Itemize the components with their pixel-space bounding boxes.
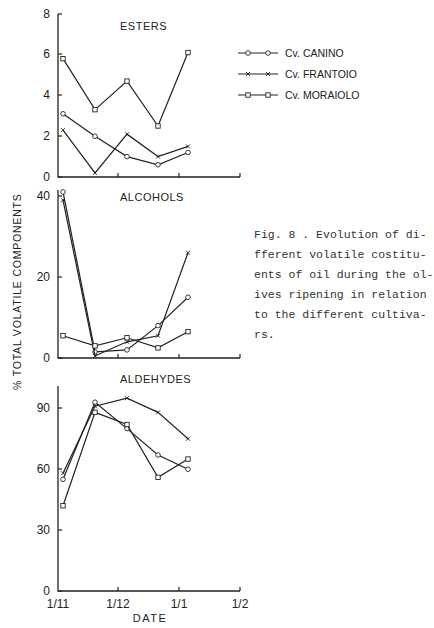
x-axis-label: DATE	[133, 612, 168, 624]
series-cvcanino	[61, 111, 191, 167]
square-marker-icon	[61, 504, 65, 508]
square-marker-icon	[156, 124, 160, 128]
square-marker-icon	[125, 79, 129, 83]
square-marker-icon	[186, 50, 190, 54]
x-tick-label: 1/2	[232, 597, 249, 611]
square-marker-icon	[93, 107, 97, 111]
circle-marker-icon	[61, 190, 66, 195]
panel-alcohols: 02040ALCOHOLS	[37, 189, 240, 365]
x-marker-icon	[61, 128, 65, 132]
figure-caption: Fig. 8 . Evolution of di- fferent volati…	[254, 225, 434, 345]
x-tick-label: 1/1	[171, 597, 188, 611]
circle-marker-icon	[156, 323, 161, 328]
series-cvfrantoio	[61, 128, 190, 175]
y-tick-label: 0	[43, 584, 50, 598]
series-line	[63, 402, 188, 479]
circle-marker-icon	[266, 51, 271, 56]
x-marker-icon	[125, 132, 129, 136]
series-line	[63, 200, 188, 356]
circle-marker-icon	[186, 467, 191, 472]
square-marker-icon	[125, 336, 129, 340]
circle-marker-icon	[246, 51, 251, 56]
series-cvmoraiolo	[61, 50, 190, 128]
square-marker-icon	[125, 422, 129, 426]
square-marker-icon	[266, 93, 270, 97]
square-marker-icon	[246, 93, 250, 97]
x-tick-label: 1/12	[106, 597, 130, 611]
y-tick-label: 90	[37, 401, 51, 415]
circle-marker-icon	[93, 134, 98, 139]
square-marker-icon	[61, 56, 65, 60]
y-tick-label: 20	[37, 270, 51, 284]
circle-marker-icon	[186, 295, 191, 300]
legend-item: Cv. CANINO	[238, 47, 344, 59]
panel-title: ALDEHYDES	[120, 373, 191, 385]
series-cvmoraiolo	[61, 410, 190, 508]
y-tick-label: 0	[43, 170, 50, 184]
axis-lines	[58, 386, 240, 591]
y-tick-label: 40	[37, 189, 51, 203]
series-line	[63, 130, 188, 173]
y-tick-label: 4	[43, 88, 50, 102]
legend-label: Cv. CANINO	[285, 47, 344, 59]
legend: Cv. CANINOCv. FRANTOIOCv. MORAIOLO	[238, 47, 359, 101]
x-marker-icon	[61, 471, 65, 475]
y-tick-label: 6	[43, 47, 50, 61]
circle-marker-icon	[125, 154, 130, 159]
y-tick-label: 60	[37, 462, 51, 476]
axis-lines	[58, 14, 240, 177]
circle-marker-icon	[125, 348, 130, 353]
circle-marker-icon	[186, 150, 191, 155]
legend-label: Cv. FRANTOIO	[285, 68, 357, 80]
circle-marker-icon	[156, 162, 161, 167]
panel-title: ESTERS	[120, 20, 167, 32]
square-marker-icon	[156, 475, 160, 479]
y-tick-label: 2	[43, 129, 50, 143]
series-cvmoraiolo	[61, 329, 190, 350]
circle-marker-icon	[61, 111, 66, 116]
square-marker-icon	[156, 346, 160, 350]
panel-aldehydes: 0306090ALDEHYDES	[37, 373, 240, 598]
panel-title: ALCOHOLS	[120, 191, 184, 203]
square-marker-icon	[186, 457, 190, 461]
square-marker-icon	[186, 329, 190, 333]
series-line	[63, 192, 188, 352]
series-cvcanino	[61, 190, 191, 355]
circle-marker-icon	[61, 477, 66, 482]
series-line	[63, 53, 188, 126]
legend-item: Cv. MORAIOLO	[238, 89, 359, 101]
legend-item: Cv. FRANTOIO	[238, 68, 357, 80]
square-marker-icon	[61, 334, 65, 338]
y-axis-label: % TOTAL VOLATILE COMPONENTS	[11, 193, 23, 390]
x-marker-icon	[93, 171, 97, 175]
square-marker-icon	[93, 344, 97, 348]
series-cvfrantoio	[61, 396, 190, 475]
legend-label: Cv. MORAIOLO	[285, 89, 359, 101]
x-marker-icon	[186, 437, 190, 441]
circle-marker-icon	[93, 400, 98, 405]
circle-marker-icon	[156, 453, 161, 458]
x-tick-label: 1/11	[47, 597, 70, 611]
y-tick-label: 0	[43, 351, 50, 365]
panel-esters: 02468ESTERS	[43, 7, 240, 184]
y-tick-label: 30	[37, 523, 51, 537]
square-marker-icon	[93, 410, 97, 414]
y-tick-label: 8	[43, 7, 50, 21]
